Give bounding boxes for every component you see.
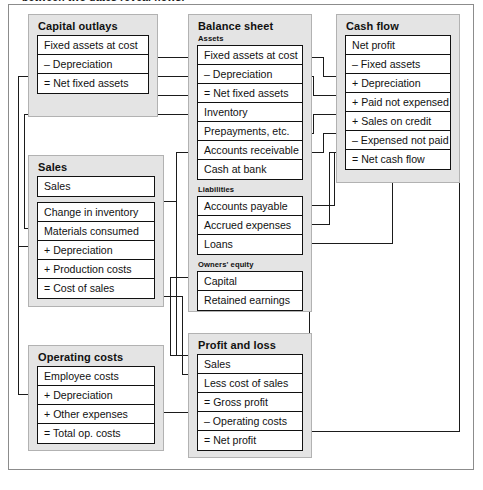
row-other-expenses[interactable]: + Other expenses	[38, 405, 154, 424]
panel-title-sales: Sales	[29, 156, 163, 176]
row-pl-operating-costs[interactable]: – Operating costs	[198, 412, 302, 431]
rowgroup-operating-costs: Employee costs + Depreciation + Other ex…	[37, 366, 155, 444]
row-cf-expensed-not-paid[interactable]: – Expensed not paid	[346, 131, 450, 150]
row-sales[interactable]: Sales	[38, 177, 154, 196]
rowgroup-profit-and-loss: Sales Less cost of sales = Gross profit …	[197, 354, 303, 451]
subtitle-assets: Assets	[189, 32, 311, 45]
row-cf-depreciation[interactable]: + Depreciation	[346, 74, 450, 93]
row-cf-net-profit[interactable]: Net profit	[346, 36, 450, 55]
row-production-costs[interactable]: + Production costs	[38, 260, 154, 279]
rowgroup-cash-flow: Net profit – Fixed assets + Depreciation…	[345, 35, 451, 170]
panel-title-cash-flow: Cash flow	[337, 15, 459, 35]
row-cf-net-cash-flow[interactable]: = Net cash flow	[346, 150, 450, 169]
row-bs-depreciation[interactable]: – Depreciation	[198, 65, 302, 84]
panel-title-profit-and-loss: Profit and loss	[189, 334, 311, 354]
rowgroup-cost-of-sales: Change in inventory Materials consumed +…	[37, 202, 155, 299]
rowgroup-assets: Fixed assets at cost – Depreciation = Ne…	[197, 45, 303, 180]
row-pl-gross-profit[interactable]: = Gross profit	[198, 393, 302, 412]
row-bs-net-fixed-assets[interactable]: = Net fixed assets	[198, 84, 302, 103]
row-bs-loans[interactable]: Loans	[198, 235, 302, 254]
row-employee-costs[interactable]: Employee costs	[38, 367, 154, 386]
panel-operating-costs[interactable]: Operating costs Employee costs + Depreci…	[28, 345, 164, 451]
panel-title-capital-outlays: Capital outlays	[29, 15, 157, 35]
row-materials-consumed[interactable]: Materials consumed	[38, 222, 154, 241]
row-bs-prepayments[interactable]: Prepayments, etc.	[198, 122, 302, 141]
panel-sales[interactable]: Sales Sales Change in inventory Material…	[28, 155, 164, 307]
row-change-in-inventory[interactable]: Change in inventory	[38, 203, 154, 222]
row-bs-accounts-payable[interactable]: Accounts payable	[198, 197, 302, 216]
rowgroup-capital-outlays: Fixed assets at cost – Depreciation = Ne…	[37, 35, 149, 94]
rowgroup-sales-revenue: Sales	[37, 176, 155, 197]
row-bs-accounts-receivable[interactable]: Accounts receivable	[198, 141, 302, 160]
rowgroup-owners-equity: Capital Retained earnings	[197, 271, 303, 311]
row-pl-net-profit[interactable]: = Net profit	[198, 431, 302, 450]
row-bs-retained-earnings[interactable]: Retained earnings	[198, 291, 302, 310]
panel-profit-and-loss[interactable]: Profit and loss Sales Less cost of sales…	[188, 333, 312, 458]
panel-balance-sheet[interactable]: Balance sheet Assets Fixed assets at cos…	[188, 14, 312, 312]
row-cf-paid-not-expensed[interactable]: + Paid not expensed	[346, 93, 450, 112]
row-bs-capital[interactable]: Capital	[198, 272, 302, 291]
row-cf-fixed-assets[interactable]: – Fixed assets	[346, 55, 450, 74]
row-bs-fixed-assets-at-cost[interactable]: Fixed assets at cost	[198, 46, 302, 65]
row-bs-cash-at-bank[interactable]: Cash at bank	[198, 160, 302, 179]
row-bs-accrued-expenses[interactable]: Accrued expenses	[198, 216, 302, 235]
row-sales-depreciation[interactable]: + Depreciation	[38, 241, 154, 260]
row-depreciation[interactable]: – Depreciation	[38, 55, 148, 74]
rowgroup-liabilities: Accounts payable Accrued expenses Loans	[197, 196, 303, 255]
diagram-canvas: between two dates reveal flows.	[0, 0, 483, 490]
row-net-fixed-assets[interactable]: = Net fixed assets	[38, 74, 148, 93]
row-total-op-costs[interactable]: = Total op. costs	[38, 424, 154, 443]
subtitle-liabilities: Liabilities	[189, 180, 311, 196]
row-bs-inventory[interactable]: Inventory	[198, 103, 302, 122]
row-cost-of-sales[interactable]: = Cost of sales	[38, 279, 154, 298]
panel-capital-outlays[interactable]: Capital outlays Fixed assets at cost – D…	[28, 14, 158, 117]
subtitle-owners-equity: Owners' equity	[189, 255, 311, 271]
panel-title-balance-sheet: Balance sheet	[189, 15, 311, 32]
row-fixed-assets-at-cost[interactable]: Fixed assets at cost	[38, 36, 148, 55]
panel-title-operating-costs: Operating costs	[29, 346, 163, 366]
row-opcost-depreciation[interactable]: + Depreciation	[38, 386, 154, 405]
row-cf-sales-on-credit[interactable]: + Sales on credit	[346, 112, 450, 131]
row-pl-less-cost-of-sales[interactable]: Less cost of sales	[198, 374, 302, 393]
row-pl-sales[interactable]: Sales	[198, 355, 302, 374]
panel-cash-flow[interactable]: Cash flow Net profit – Fixed assets + De…	[336, 14, 460, 183]
